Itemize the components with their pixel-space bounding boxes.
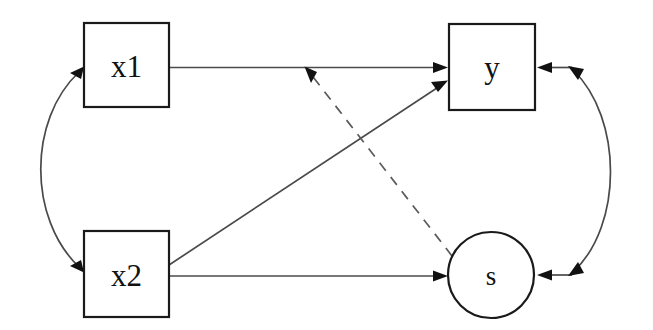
edge-y-s-arrowhead-top-outer — [568, 66, 584, 80]
node-y-label: y — [484, 50, 500, 85]
edge-y-s-curve — [573, 70, 611, 272]
edge-x1-x2-curve — [41, 72, 79, 267]
node-x1[interactable]: x1 — [84, 23, 169, 107]
edge-x1-to-y-arrowhead — [433, 62, 448, 73]
edge-x2-to-s — [169, 271, 448, 282]
edge-x1-x2-arrowhead-bottom — [70, 260, 84, 273]
edge-y-s-covariance — [537, 62, 611, 281]
edge-x1-x2-covariance — [41, 67, 84, 273]
edge-s-dashed-line — [310, 73, 452, 256]
path-diagram-canvas: x1 x2 y s — [0, 0, 653, 330]
node-x1-label: x1 — [111, 49, 142, 84]
edge-y-s-arrowhead-bottom-inner — [537, 270, 552, 281]
node-y[interactable]: y — [449, 24, 535, 110]
node-s[interactable]: s — [448, 232, 534, 318]
node-x2[interactable]: x2 — [84, 231, 169, 317]
edge-x2-to-s-arrowhead — [433, 271, 448, 282]
node-x2-label: x2 — [111, 258, 142, 293]
edge-y-s-arrowhead-top-inner — [537, 62, 552, 73]
edge-x2-to-y-line — [169, 84, 443, 265]
edge-x2-to-y — [169, 81, 448, 266]
edge-x1-x2-arrowhead-top — [70, 67, 84, 80]
node-s-label: s — [486, 261, 497, 291]
diagram-svg: x1 x2 y s — [0, 0, 653, 330]
